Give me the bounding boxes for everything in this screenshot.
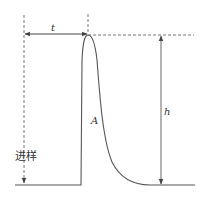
- label-a: A: [90, 115, 98, 126]
- label-injection: 进样: [15, 149, 37, 163]
- label-t: t: [51, 22, 56, 33]
- label-h: h: [164, 106, 170, 117]
- chromatogram-diagram: t h A 进样: [0, 0, 206, 210]
